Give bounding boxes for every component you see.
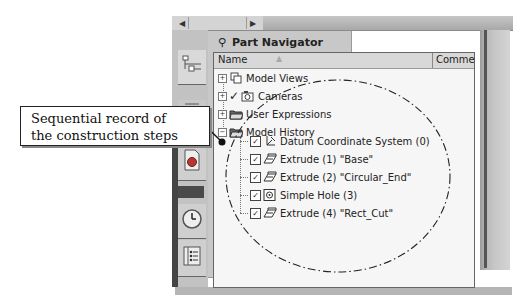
callout-line-1: Sequential record of bbox=[31, 110, 209, 127]
history-tab[interactable] bbox=[178, 204, 206, 239]
column-header: Name ▲ Comme bbox=[214, 53, 474, 69]
scroll-left-arrow-icon[interactable]: ◀ bbox=[176, 17, 188, 29]
scroll-track[interactable] bbox=[188, 17, 247, 29]
navigator-icon: ⚲ bbox=[218, 36, 226, 49]
tree-structure-icon bbox=[181, 54, 203, 80]
part-icon bbox=[182, 149, 202, 175]
reuse-library-tab[interactable] bbox=[178, 240, 206, 277]
list-book-icon bbox=[182, 245, 202, 271]
part-navigator-tab[interactable] bbox=[178, 144, 206, 181]
scroll-right-arrow-icon[interactable]: ▶ bbox=[246, 17, 259, 29]
tab-separator bbox=[178, 186, 204, 198]
annotation-callout: Sequential record of the construction st… bbox=[20, 106, 210, 146]
right-frame-divider bbox=[484, 30, 487, 268]
column-comment-header[interactable]: Comme bbox=[436, 54, 475, 65]
sort-ascending-icon: ▲ bbox=[276, 54, 282, 63]
assembly-navigator-tab[interactable] bbox=[178, 50, 206, 85]
column-separator[interactable] bbox=[432, 53, 433, 68]
panel-title: Part Navigator bbox=[232, 36, 323, 49]
callout-line-2: the construction steps bbox=[31, 127, 209, 144]
highlight-ellipse bbox=[214, 72, 482, 280]
top-toolbar-strip bbox=[263, 16, 513, 31]
column-name-header[interactable]: Name bbox=[218, 54, 248, 65]
bottom-frame-border bbox=[175, 287, 512, 295]
panel-title-bar: ⚲ Part Navigator bbox=[210, 34, 490, 50]
clock-icon bbox=[181, 208, 203, 234]
